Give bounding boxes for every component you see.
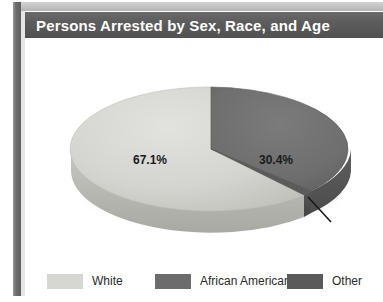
legend-swatch-white <box>47 274 83 289</box>
chart-plot-area: 67.1% 30.4% 2.5% <box>25 38 383 264</box>
pie-label-white: 67.1% <box>133 153 167 167</box>
top-rule-divider <box>13 2 383 11</box>
legend-label-other: Other <box>332 274 362 288</box>
legend-label-african-american: African American <box>200 274 291 288</box>
legend-label-white: White <box>92 274 123 288</box>
page-title: Persons Arrested by Sex, Race, and Age <box>36 16 330 35</box>
legend-item-other: Other <box>287 272 362 290</box>
pie-chart-graphic <box>59 64 359 234</box>
pie-chart: 67.1% 30.4% 2.5% <box>59 64 359 234</box>
legend-item-white: White <box>47 272 123 290</box>
legend-swatch-other <box>287 274 323 289</box>
chart-legend: White African American Other <box>25 264 383 302</box>
pie-side-other <box>304 191 311 217</box>
figure-frame: Persons Arrested by Sex, Race, and Age <box>0 0 383 302</box>
legend-swatch-african-american <box>155 274 191 289</box>
chart-title-bar: Persons Arrested by Sex, Race, and Age <box>25 12 383 38</box>
pie-label-african-american: 30.4% <box>259 153 293 167</box>
left-rule-divider <box>13 2 21 296</box>
legend-item-african-american: African American <box>155 272 291 290</box>
